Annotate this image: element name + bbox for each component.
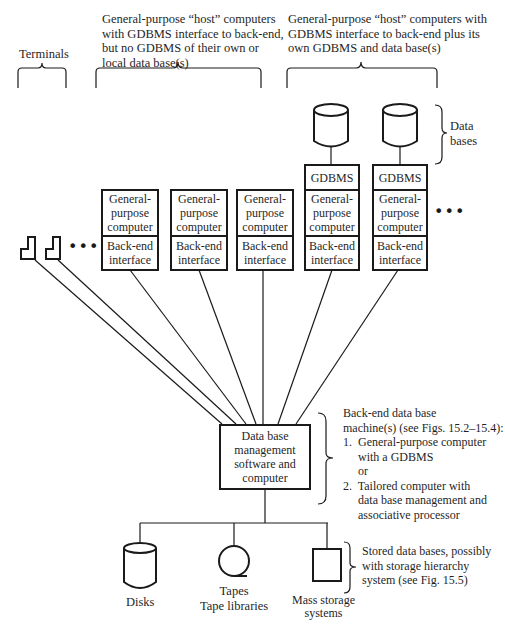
terminal-icon <box>46 237 60 259</box>
backend-brace <box>318 413 333 504</box>
hosts-with-gdbms-label: General-purpose “host” computers with GD… <box>288 12 487 56</box>
hosts-with-gdbms-brace <box>287 62 437 88</box>
general-purpose-computer: General- purpose computer <box>374 189 426 235</box>
mass-storage-label: Mass storage systems <box>292 594 355 620</box>
disk-icon <box>124 543 156 588</box>
backend-dbms-box: Data base management software and comput… <box>219 424 311 490</box>
tapes-label: Tapes Tape libraries <box>200 584 268 613</box>
disks-label: Disks <box>126 595 154 610</box>
general-purpose-computer: General- purpose computer <box>103 191 157 235</box>
host-box: General- purpose computer Back-end inter… <box>236 189 294 271</box>
host-box-with-gdbms: GDBMS General- purpose computer Back-end… <box>372 164 428 271</box>
terminal-icon <box>21 237 35 259</box>
gdbms: GDBMS <box>306 166 358 189</box>
storage-description: Stored data bases, possibly with storage… <box>362 544 491 588</box>
tape-icon <box>219 546 249 576</box>
host-box-with-gdbms: GDBMS General- purpose computer Back-end… <box>304 164 360 271</box>
back-end-interface: Back-end interface <box>374 235 426 269</box>
hosts-no-gdbms-label: General-purpose “host” computers with GD… <box>102 12 284 70</box>
gdbms: GDBMS <box>374 166 426 189</box>
backend-description: Back-end data base machine(s) (see Figs.… <box>343 406 504 522</box>
backend-dbms-label: Data base management software and comput… <box>221 426 309 488</box>
storage-brace <box>344 542 356 593</box>
back-end-interface: Back-end interface <box>238 235 292 269</box>
data-bases-label: Data bases <box>450 119 477 148</box>
database-cylinder-icon <box>383 104 417 147</box>
database-cylinder-icon <box>314 104 348 147</box>
data-bases-brace <box>435 105 447 164</box>
connection-lines <box>0 0 505 624</box>
mass-storage-icon <box>313 549 341 581</box>
general-purpose-computer: General- purpose computer <box>238 191 292 235</box>
terminals-ellipsis: ••• <box>68 237 99 256</box>
host-box: General- purpose computer Back-end inter… <box>101 189 159 271</box>
terminals-brace <box>18 63 66 88</box>
general-purpose-computer: General- purpose computer <box>172 191 226 235</box>
host-box: General- purpose computer Back-end inter… <box>170 189 228 271</box>
back-end-interface: Back-end interface <box>103 235 157 269</box>
hosts-ellipsis: ••• <box>434 202 465 221</box>
back-end-interface: Back-end interface <box>306 235 358 269</box>
back-end-interface: Back-end interface <box>172 235 226 269</box>
general-purpose-computer: General- purpose computer <box>306 189 358 235</box>
terminals-label: Terminals <box>19 47 69 62</box>
